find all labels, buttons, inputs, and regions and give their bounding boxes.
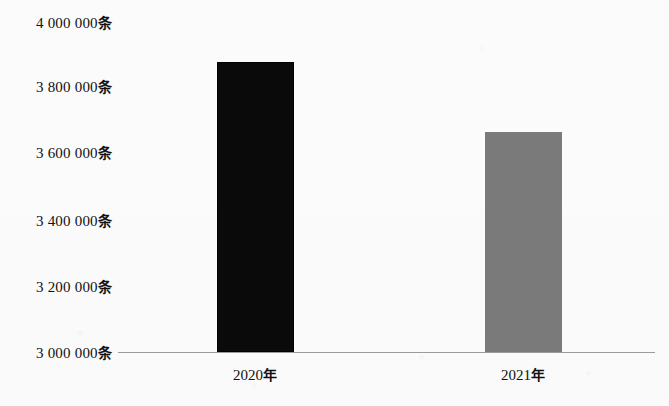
x-axis-label-unit: 年	[531, 367, 545, 383]
bar-chart-figure: 4 000 000条 3 800 000条 3 600 000条 3 400 0…	[0, 0, 669, 406]
y-axis-tick-value: 3 400 000	[36, 213, 98, 229]
y-axis-tick-4000000: 4 000 000条	[0, 16, 112, 31]
x-axis-label-value: 2020	[233, 367, 263, 383]
y-axis-tick-value: 3 200 000	[36, 279, 98, 295]
bar-2021	[485, 132, 562, 352]
y-axis-tick-3200000: 3 200 000条	[0, 280, 112, 295]
y-axis-tick-unit: 条	[98, 213, 112, 229]
x-axis-label-unit: 年	[263, 367, 277, 383]
x-axis-label-2021: 2021年	[453, 368, 593, 383]
y-axis-tick-value: 4 000 000	[36, 15, 98, 31]
y-axis-tick-value: 3 000 000	[36, 345, 98, 361]
y-axis-tick-unit: 条	[98, 15, 112, 31]
y-axis-tick-unit: 条	[98, 345, 112, 361]
x-axis-label-value: 2021	[501, 367, 531, 383]
bar-2020	[217, 62, 294, 352]
y-axis-tick-unit: 条	[98, 79, 112, 95]
y-axis-tick-3800000: 3 800 000条	[0, 80, 112, 95]
x-axis-label-2020: 2020年	[185, 368, 325, 383]
plot-area	[118, 0, 655, 352]
y-axis-tick-unit: 条	[98, 145, 112, 161]
y-axis-tick-3400000: 3 400 000条	[0, 214, 112, 229]
y-axis-tick-value: 3 600 000	[36, 145, 98, 161]
x-axis-line	[118, 352, 655, 353]
y-axis-tick-unit: 条	[98, 279, 112, 295]
y-axis-tick-3000000: 3 000 000条	[0, 346, 112, 361]
y-axis-tick-value: 3 800 000	[36, 79, 98, 95]
y-axis-tick-3600000: 3 600 000条	[0, 146, 112, 161]
